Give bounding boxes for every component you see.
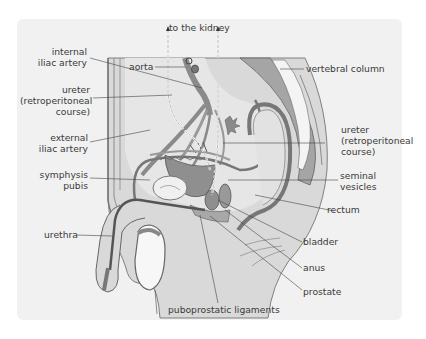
label-ureter-right: ureter (retroperitoneal course) — [341, 124, 413, 157]
label-seminal-vesicles: seminal vesicles — [340, 170, 376, 192]
symphysis-shape — [153, 176, 187, 200]
label-puboprostatic-ligaments: puboprostatic ligaments — [168, 304, 280, 315]
label-rectum: rectum — [327, 204, 360, 215]
label-vertebral-column: vertebral column — [306, 63, 385, 74]
testis-shape — [135, 225, 165, 290]
label-ureter-left: ureter (retroperitoneal course) — [20, 84, 90, 117]
prostate-shape — [205, 190, 219, 210]
label-symphysis-pubis: symphysis pubis — [29, 169, 88, 191]
label-anus: anus — [303, 262, 325, 273]
label-external-iliac-artery: external iliac artery — [29, 132, 88, 154]
label-urethra: urethra — [44, 229, 78, 240]
label-internal-iliac-artery: internal iliac artery — [29, 46, 87, 68]
label-prostate: prostate — [303, 286, 341, 297]
label-aorta: aorta — [129, 61, 153, 72]
label-bladder: bladder — [303, 236, 338, 247]
label-to-the-kidney: to the kidney — [169, 22, 230, 33]
